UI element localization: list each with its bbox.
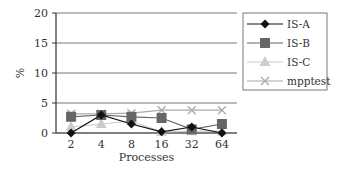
series-line-is-b <box>71 115 222 129</box>
marker-is-b <box>66 112 76 122</box>
y-tick-label: 0 <box>41 127 48 140</box>
y-tick-label: 10 <box>34 67 48 80</box>
series-line-mpptest <box>71 110 222 114</box>
x-tick-label: 16 <box>155 138 169 151</box>
x-tick-label: 4 <box>98 138 105 151</box>
x-tick-label: 2 <box>68 138 75 151</box>
x-tick-label: 64 <box>215 138 229 151</box>
legend-label: mpptest <box>287 75 331 87</box>
legend-marker-is-b <box>260 38 270 48</box>
chart-canvas: 05101520248163264Processes%IS-AIS-BIS-Cm… <box>0 0 344 171</box>
marker-is-b <box>157 113 167 123</box>
legend-label: IS-A <box>287 18 310 30</box>
line-chart: 05101520248163264Processes%IS-AIS-BIS-Cm… <box>0 0 344 171</box>
y-axis-label: % <box>14 68 27 78</box>
marker-is-a <box>217 129 226 138</box>
y-tick-label: 15 <box>34 37 48 50</box>
x-tick-label: 8 <box>128 138 135 151</box>
y-tick-label: 5 <box>41 97 48 110</box>
marker-is-b <box>217 119 227 129</box>
series-line-is-c <box>71 121 222 132</box>
y-tick-label: 20 <box>34 7 48 20</box>
legend-label: IS-B <box>287 37 310 49</box>
legend-label: IS-C <box>287 56 310 68</box>
x-axis-label: Processes <box>119 151 175 164</box>
x-tick-label: 32 <box>185 138 199 151</box>
